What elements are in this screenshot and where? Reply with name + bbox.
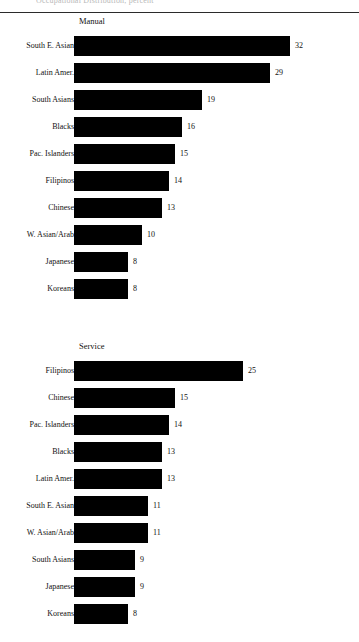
bar-row: W. Asian/Arab11 [0,519,359,546]
bar-rect [74,415,169,435]
bar-plot-area: 13 [74,469,359,489]
bar-category-label: Pac. Islanders [30,420,74,430]
bar-plot-area: 29 [74,63,359,83]
bar-value-label: 15 [175,149,188,159]
bar-category-label: Blacks [52,122,74,132]
bar-rect [74,279,128,299]
bar-category-label: South Asians [32,555,74,565]
bar-category-label: Chinese [48,393,74,403]
bar-category-label: Koreans [47,284,74,294]
bar-plot-area: 8 [74,252,359,272]
bar-category-label: Koreans [47,609,74,619]
bar-value-label: 14 [169,420,182,430]
bar-category-label: Japanese [46,582,74,592]
bar-value-label: 9 [135,582,144,592]
bar-rect [74,604,128,624]
bar-row: Filipinos14 [0,167,359,194]
chart-manual-title: Manual [79,16,105,26]
bar-category-label: South Asians [32,95,74,105]
bar-value-label: 32 [290,41,303,51]
bar-category-label: W. Asian/Arab [27,528,74,538]
bar-rect [74,117,182,137]
bar-category-label: Latin Amer. [36,68,74,78]
bar-value-label: 11 [148,501,161,511]
bar-row: South Asians9 [0,546,359,573]
bar-category-label: Latin Amer. [36,474,74,484]
bar-category-label: South E. Asian [26,501,74,511]
bar-row: W. Asian/Arab10 [0,221,359,248]
bar-row: Blacks13 [0,438,359,465]
bar-rect [74,171,169,191]
bar-rect [74,63,270,83]
bar-plot-area: 14 [74,415,359,435]
chart-service-rows: Filipinos25Chinese15Pac. Islanders14Blac… [0,357,359,627]
bar-value-label: 19 [202,95,215,105]
bar-rect [74,90,202,110]
bar-row: Koreans8 [0,275,359,302]
bar-plot-area: 8 [74,279,359,299]
bar-category-label: Japanese [46,257,74,267]
bar-plot-area: 13 [74,198,359,218]
bar-row: Chinese13 [0,194,359,221]
bar-plot-area: 9 [74,577,359,597]
bar-rect [74,144,175,164]
bar-plot-area: 15 [74,144,359,164]
bar-row: Chinese15 [0,384,359,411]
bar-category-label: Chinese [48,203,74,213]
bar-row: South Asians19 [0,86,359,113]
bar-row: South E. Asian32 [0,32,359,59]
bar-rect [74,577,135,597]
bar-row: Japanese9 [0,573,359,600]
bar-row: Blacks16 [0,113,359,140]
bar-value-label: 25 [243,366,256,376]
chart-manual-rows: South E. Asian32Latin Amer.29South Asian… [0,32,359,302]
bar-value-label: 11 [148,528,161,538]
bar-rect [74,252,128,272]
chart-service-title: Service [79,341,105,351]
bar-value-label: 15 [175,393,188,403]
bar-value-label: 10 [142,230,155,240]
bar-value-label: 13 [162,447,175,457]
bar-rect [74,550,135,570]
bar-plot-area: 25 [74,361,359,381]
bar-value-label: 13 [162,203,175,213]
bar-row: Japanese8 [0,248,359,275]
bar-rect [74,442,162,462]
bar-plot-area: 8 [74,604,359,624]
bar-value-label: 8 [128,284,137,294]
bar-plot-area: 15 [74,388,359,408]
bar-plot-area: 13 [74,442,359,462]
bar-plot-area: 9 [74,550,359,570]
bar-plot-area: 11 [74,496,359,516]
bar-rect [74,225,142,245]
bar-row: Pac. Islanders14 [0,411,359,438]
bar-plot-area: 16 [74,117,359,137]
bar-plot-area: 32 [74,36,359,56]
bar-plot-area: 14 [74,171,359,191]
bar-category-label: Filipinos [46,176,74,186]
bar-value-label: 13 [162,474,175,484]
bar-category-label: W. Asian/Arab [27,230,74,240]
bar-row: Pac. Islanders15 [0,140,359,167]
bar-rect [74,198,162,218]
bar-rect [74,388,175,408]
bar-row: Latin Amer.29 [0,59,359,86]
bar-value-label: 14 [169,176,182,186]
bar-value-label: 9 [135,555,144,565]
bar-rect [74,469,162,489]
bar-rect [74,361,243,381]
bar-value-label: 16 [182,122,195,132]
bar-row: South E. Asian11 [0,492,359,519]
bar-plot-area: 19 [74,90,359,110]
bar-rect [74,523,148,543]
clipped-header-text: Occupational Distribution, percent [36,0,336,5]
bar-row: Latin Amer.13 [0,465,359,492]
bar-plot-area: 10 [74,225,359,245]
bar-category-label: Filipinos [46,366,74,376]
bar-category-label: Blacks [52,447,74,457]
bar-row: Filipinos25 [0,357,359,384]
bar-category-label: Pac. Islanders [30,149,74,159]
bar-rect [74,36,290,56]
header-divider-rule [0,12,359,13]
bar-plot-area: 11 [74,523,359,543]
